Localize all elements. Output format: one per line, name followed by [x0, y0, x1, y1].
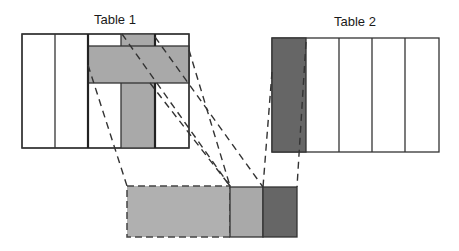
table2-highlight-column	[272, 38, 306, 152]
join-diagram	[0, 0, 459, 251]
table1	[22, 34, 189, 148]
table2	[272, 38, 439, 152]
result-row	[127, 186, 297, 237]
result-segment-table1-column	[230, 187, 263, 237]
table1-highlight-row	[88, 46, 189, 83]
result-segment-table2-column	[263, 187, 297, 237]
result-segment-table1-row	[127, 186, 230, 237]
connector-line	[263, 72, 272, 187]
connector-line	[189, 50, 230, 186]
